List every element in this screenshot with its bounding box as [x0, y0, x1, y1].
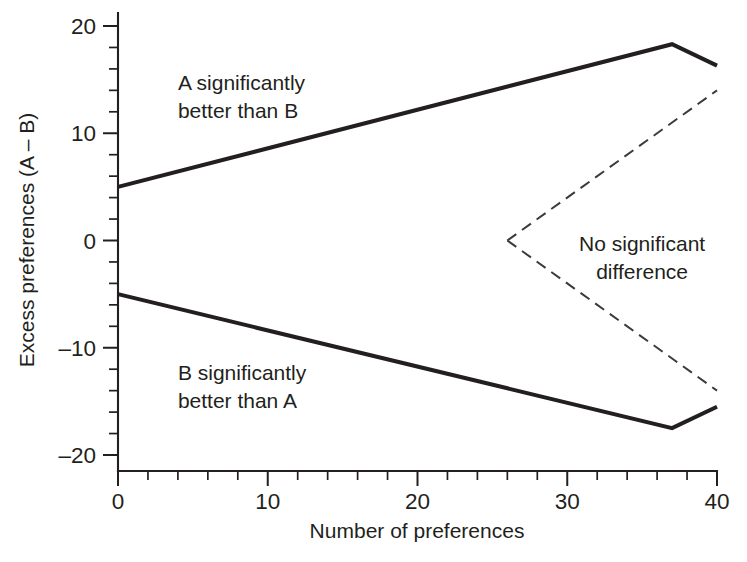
y-tick-label: 20: [71, 14, 96, 39]
x-tick-label: 0: [112, 489, 125, 514]
annotation-line: No significant: [579, 232, 705, 255]
y-tick-label: –20: [58, 443, 96, 468]
annotation-line: better than A: [178, 389, 297, 412]
line-chart: 20100–10–20010203040 A significantlybett…: [0, 0, 747, 562]
y-axis-title: Excess preferences (A – B): [15, 113, 38, 367]
annotation-line: difference: [596, 260, 688, 283]
chart-figure: 20100–10–20010203040 A significantlybett…: [0, 0, 747, 562]
annotation-region-no-difference: No significantdifference: [579, 232, 705, 283]
x-tick-label: 30: [555, 489, 580, 514]
annotation-line: B significantly: [178, 361, 307, 384]
x-tick-label: 10: [255, 489, 280, 514]
x-tick-label: 40: [704, 489, 729, 514]
y-tick-label: –10: [58, 336, 96, 361]
y-tick-label: 0: [83, 229, 96, 254]
series-line-2: [507, 90, 717, 240]
x-tick-label: 20: [405, 489, 430, 514]
region-annotations: A significantlybetter than BB significan…: [178, 71, 705, 412]
x-axis-title: Number of preferences: [310, 519, 525, 542]
y-tick-label: 10: [71, 121, 96, 146]
annotation-region-b-better: B significantlybetter than A: [178, 361, 307, 412]
annotation-line: better than B: [178, 99, 298, 122]
annotation-line: A significantly: [178, 71, 306, 94]
annotation-region-a-better: A significantlybetter than B: [178, 71, 306, 122]
